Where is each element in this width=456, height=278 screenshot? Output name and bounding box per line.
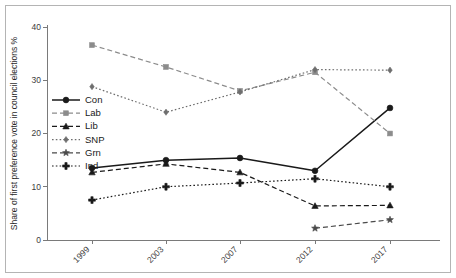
legend-item-lab[interactable]: Lab — [52, 107, 101, 118]
legend-label-ind: Ind — [85, 160, 98, 171]
plus-marker — [387, 183, 394, 190]
series-lab — [90, 43, 393, 136]
square-marker — [90, 43, 95, 48]
legend-label-con: Con — [85, 94, 102, 105]
legend-item-con[interactable]: Con — [52, 94, 102, 105]
star-marker — [63, 149, 70, 156]
circle-marker — [312, 168, 318, 174]
line-chart: ConLabLibSNPGrnInd 010203040199920032007… — [0, 0, 456, 278]
chart-legend: ConLabLibSNPGrnInd — [52, 94, 105, 171]
legend-item-grn[interactable]: Grn — [52, 147, 101, 158]
legend-label-lab: Lab — [85, 107, 101, 118]
diamond-marker — [64, 137, 68, 143]
plus-marker — [89, 197, 96, 204]
circle-marker — [63, 97, 69, 103]
series-con — [89, 105, 393, 174]
plus-marker — [312, 175, 319, 182]
plus-marker — [237, 180, 244, 187]
square-marker — [388, 131, 393, 136]
legend-item-snp[interactable]: SNP — [52, 134, 105, 145]
y-tick-label: 30 — [32, 75, 42, 85]
y-axis-title: Share of first preference vote in counci… — [9, 36, 19, 230]
y-tick-label: 10 — [32, 182, 42, 192]
data-series-group — [89, 43, 394, 231]
diamond-marker — [388, 67, 392, 73]
diamond-marker — [90, 84, 94, 90]
legend-label-lib: Lib — [85, 120, 98, 131]
star-marker — [312, 225, 319, 232]
series-line-con — [92, 108, 390, 171]
y-tick-label: 20 — [32, 128, 42, 138]
star-marker — [387, 216, 394, 223]
circle-marker — [387, 105, 393, 111]
plus-marker — [63, 163, 70, 170]
x-tick-label: 2007 — [219, 244, 240, 265]
triangle-marker — [387, 202, 393, 208]
square-marker — [164, 65, 169, 70]
y-tick-label: 0 — [36, 235, 41, 245]
series-grn — [312, 216, 394, 231]
x-tick-label: 2012 — [294, 244, 315, 265]
series-snp — [90, 67, 392, 116]
square-marker — [64, 111, 69, 116]
legend-label-grn: Grn — [85, 147, 101, 158]
x-tick-label: 2003 — [145, 244, 166, 265]
diamond-marker — [164, 109, 168, 115]
axis-labels: 01020304019992003200720122017Share of fi… — [9, 22, 390, 265]
plus-marker — [163, 183, 170, 190]
x-tick-label: 2017 — [369, 244, 390, 265]
x-tick-label: 1999 — [71, 244, 92, 265]
series-line-grn — [315, 220, 390, 229]
legend-item-ind[interactable]: Ind — [52, 160, 98, 171]
legend-label-snp: SNP — [85, 134, 105, 145]
legend-item-lib[interactable]: Lib — [52, 120, 98, 131]
chart-figure: ConLabLibSNPGrnInd 010203040199920032007… — [0, 0, 456, 278]
y-tick-label: 40 — [32, 22, 42, 32]
circle-marker — [237, 155, 243, 161]
series-ind — [89, 175, 394, 203]
